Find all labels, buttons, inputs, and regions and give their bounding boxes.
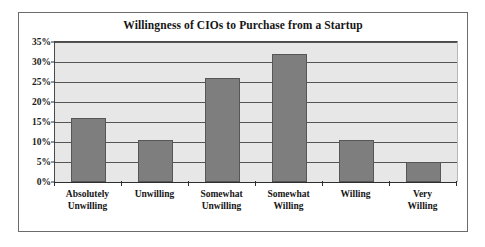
bar-slot bbox=[323, 42, 390, 182]
y-tick-label: 25% bbox=[32, 77, 51, 87]
x-tick-label: Willing bbox=[341, 189, 371, 201]
bar[interactable] bbox=[406, 162, 441, 182]
y-tick-label: 5% bbox=[37, 157, 51, 167]
bar-slot bbox=[55, 42, 122, 182]
x-tick-label: Unwilling bbox=[135, 189, 175, 201]
x-tick-label: Absolutely Unwilling bbox=[66, 189, 109, 212]
x-tick-mark bbox=[456, 181, 457, 186]
x-axis: Absolutely UnwillingUnwillingSomewhat Un… bbox=[54, 181, 456, 233]
bar-slot bbox=[189, 42, 256, 182]
bar[interactable] bbox=[272, 54, 307, 182]
chart-title: Willingness of CIOs to Purchase from a S… bbox=[19, 19, 467, 31]
y-tick-label: 30% bbox=[32, 57, 51, 67]
x-tick-mark bbox=[255, 181, 256, 186]
y-tick-label: 35% bbox=[32, 37, 51, 47]
y-tick-label: 10% bbox=[32, 137, 51, 147]
x-tick-label: Very Willing bbox=[406, 189, 440, 212]
x-tick-mark bbox=[121, 181, 122, 186]
x-tick-label: Somewhat Willing bbox=[267, 189, 309, 212]
bar-slot bbox=[122, 42, 189, 182]
y-tick-label: 0% bbox=[37, 177, 51, 187]
chart-frame: Willingness of CIOs to Purchase from a S… bbox=[18, 12, 468, 232]
bar[interactable] bbox=[339, 140, 374, 182]
x-tick-mark bbox=[188, 181, 189, 186]
bar[interactable] bbox=[71, 118, 106, 182]
bar-slot bbox=[390, 42, 457, 182]
x-tick-mark bbox=[389, 181, 390, 186]
y-tick-label: 20% bbox=[32, 97, 51, 107]
bar[interactable] bbox=[205, 78, 240, 182]
x-tick-mark bbox=[54, 181, 55, 186]
x-tick-mark bbox=[322, 181, 323, 186]
plot-area: 0%5%10%15%20%25%30%35% bbox=[54, 41, 458, 182]
y-tick-label: 15% bbox=[32, 117, 51, 127]
bar-series bbox=[55, 42, 457, 182]
bar[interactable] bbox=[138, 140, 173, 182]
x-tick-label: Somewhat Unwilling bbox=[200, 189, 242, 212]
bar-slot bbox=[256, 42, 323, 182]
